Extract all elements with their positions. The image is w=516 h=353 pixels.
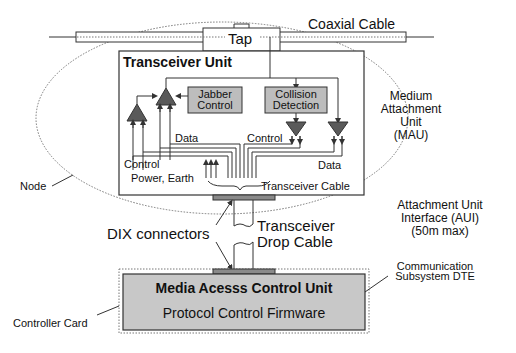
node-leader bbox=[52, 175, 73, 186]
node-label: Node bbox=[20, 181, 46, 192]
drop-cable bbox=[234, 200, 253, 270]
mac-unit-title: Media Acesss Control Unit bbox=[123, 281, 365, 295]
collision-detection-label: Collision Detection bbox=[265, 89, 327, 111]
controller-card-leader bbox=[97, 306, 119, 315]
coaxial-cable-label: Coaxial Cable bbox=[308, 17, 395, 31]
data-left-label: Data bbox=[175, 133, 198, 144]
dix-connector-upper bbox=[213, 195, 275, 200]
collision-line-2: Detection bbox=[265, 100, 327, 111]
drop-cable-line-2: Drop Cable bbox=[257, 234, 335, 250]
dix-connectors-label: DIX connectors bbox=[107, 226, 210, 241]
jabber-control-label: Jabber Control bbox=[188, 89, 242, 111]
drop-cable-label: Transceiver Drop Cable bbox=[257, 218, 335, 250]
tap-label: Tap bbox=[228, 31, 252, 46]
transceiver-unit-title: Transceiver Unit bbox=[123, 55, 232, 69]
control-left-label: Control bbox=[124, 159, 159, 170]
comm-dte-label: Communication Subsystem DTE bbox=[385, 261, 485, 281]
drop-cable-line-1: Transceiver bbox=[257, 218, 335, 234]
data-right-label: Data bbox=[318, 160, 341, 171]
aui-label: Attachment Unit Interface (AUI) (50m max… bbox=[385, 199, 495, 238]
power-earth-label: Power, Earth bbox=[131, 173, 194, 184]
mau-line-4: (MAU) bbox=[375, 129, 447, 142]
mau-label: Medium Attachment Unit (MAU) bbox=[375, 90, 447, 142]
protocol-firmware-label: Protocol Control Firmware bbox=[123, 306, 365, 320]
diagram-canvas bbox=[0, 0, 516, 353]
transceiver-cable-label: Transceiver Cable bbox=[261, 181, 350, 192]
controller-card-label: Controller Card bbox=[13, 318, 88, 329]
control-right-label: Control bbox=[247, 133, 282, 144]
aui-line-3: (50m max) bbox=[385, 225, 495, 238]
jabber-line-2: Control bbox=[188, 100, 242, 111]
comm-dte-line-2: Subsystem DTE bbox=[385, 271, 485, 281]
dix-connector-lower bbox=[213, 269, 275, 274]
